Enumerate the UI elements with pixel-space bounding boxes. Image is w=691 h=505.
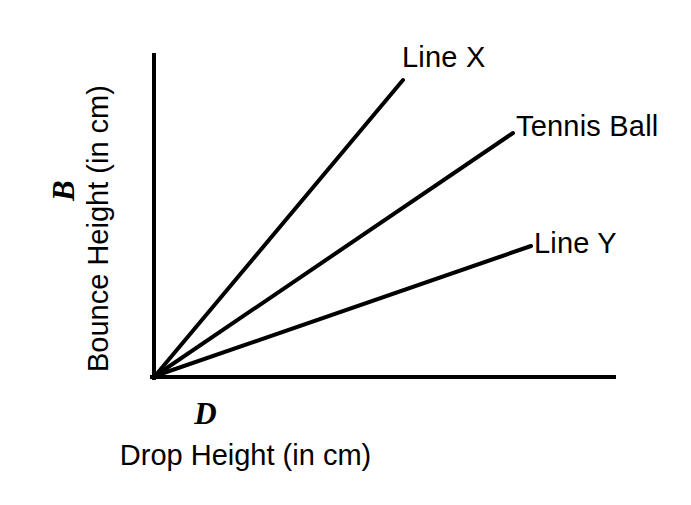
x-axis-title: Drop Height (in cm) (0, 441, 591, 470)
bounce-height-graph: Line X Tennis Ball Line Y D Drop Height … (0, 0, 691, 505)
y-axis-title-wrapper: Bounce Height (in cm) (84, 85, 113, 372)
series-label-tennis-ball: Tennis Ball (516, 112, 658, 141)
series-label-line-x: Line X (402, 43, 485, 72)
y-axis-title: Bounce Height (in cm) (84, 85, 113, 372)
x-axis-variable: D (0, 398, 551, 429)
y-axis-variable: B (48, 180, 79, 201)
series-line-tennis-ball (155, 133, 513, 376)
series-label-line-y: Line Y (534, 229, 617, 258)
